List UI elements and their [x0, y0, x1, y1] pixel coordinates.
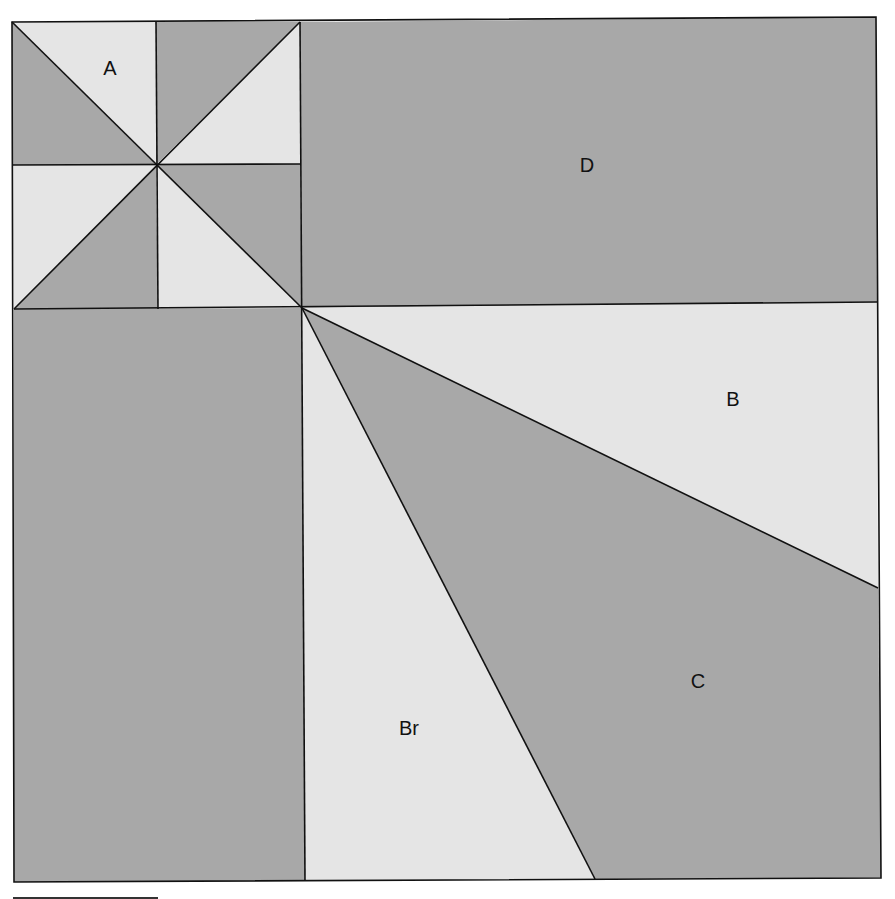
label-a: A: [103, 57, 117, 79]
quilt-diagram: A D B C Br: [0, 0, 895, 899]
label-d: D: [580, 154, 594, 176]
label-b: B: [726, 388, 739, 410]
region-left-rect: [14, 308, 305, 882]
label-c: C: [691, 670, 705, 692]
label-br: Br: [399, 717, 419, 739]
